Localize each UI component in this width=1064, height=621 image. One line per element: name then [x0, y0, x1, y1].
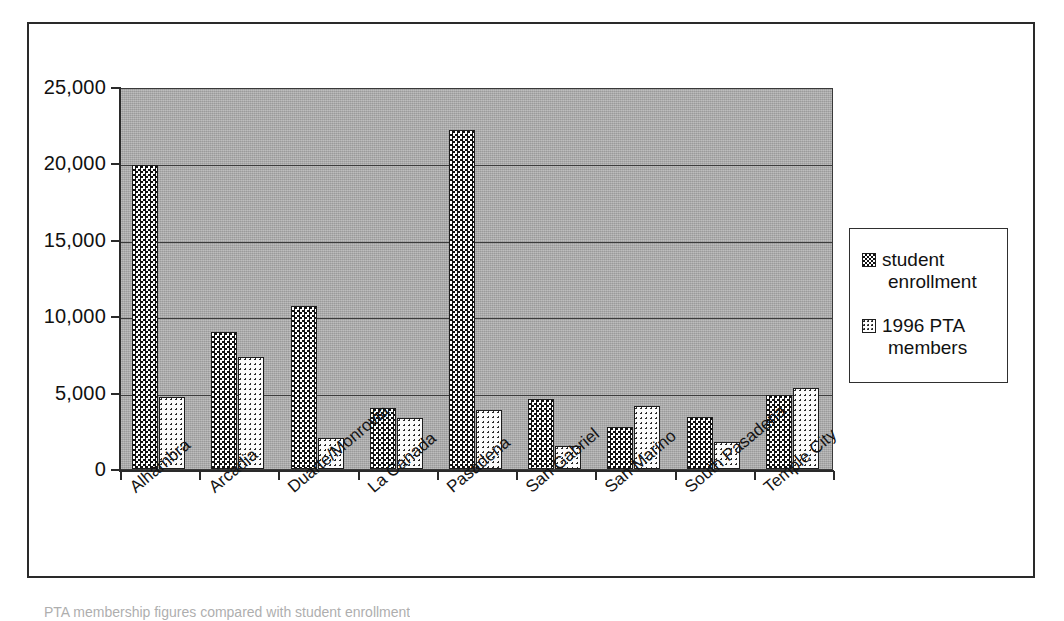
x-axis-tick: [358, 471, 360, 480]
legend-swatch-icon: [862, 253, 876, 267]
x-axis-tick: [675, 471, 677, 480]
bar-pasadena-0: [449, 130, 475, 469]
x-axis-tick: [437, 471, 439, 480]
y-axis-tick: [111, 87, 121, 89]
y-axis-tick: [111, 393, 121, 395]
gridline: [121, 318, 832, 319]
x-axis-tick: [833, 471, 835, 480]
x-axis-tick: [754, 471, 756, 480]
bar-chart: 05,00010,00015,00020,00025,000 AlhambraA…: [0, 0, 1064, 621]
plot-area: [120, 88, 833, 470]
y-axis-line: [119, 88, 121, 471]
y-axis-label: 5,000: [55, 382, 106, 405]
gridline: [121, 242, 832, 243]
y-axis-label: 20,000: [44, 152, 106, 175]
x-axis-tick: [120, 471, 122, 480]
x-axis-tick: [516, 471, 518, 480]
legend-label: studentenrollment: [882, 249, 977, 293]
x-axis-tick: [595, 471, 597, 480]
chart-legend: studentenrollment1996 PTAmembers: [849, 228, 1008, 383]
x-axis-tick: [199, 471, 201, 480]
legend-swatch-icon: [862, 319, 876, 333]
y-axis-tick: [111, 316, 121, 318]
y-axis-label: 15,000: [44, 229, 106, 252]
x-axis-tick: [278, 471, 280, 480]
legend-entry-0: studentenrollment: [862, 249, 997, 293]
legend-entry-1: 1996 PTAmembers: [862, 315, 997, 359]
y-axis-label: 0: [95, 458, 106, 481]
y-axis-tick: [111, 163, 121, 165]
gridline: [121, 165, 832, 166]
y-axis-label: 10,000: [44, 305, 106, 328]
y-axis-label: 25,000: [44, 76, 106, 99]
y-axis-tick: [111, 240, 121, 242]
bar-duarte-monrovia-0: [291, 306, 317, 469]
clipped-caption: PTA membership figures compared with stu…: [44, 604, 410, 621]
bar-alhambra-0: [132, 165, 158, 469]
legend-label: 1996 PTAmembers: [882, 315, 967, 359]
bar-arcadia-0: [211, 332, 237, 469]
